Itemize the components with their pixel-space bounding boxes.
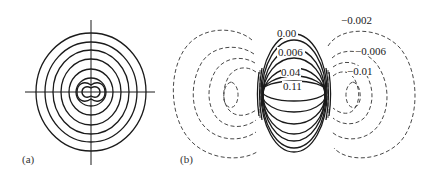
negative-lobe-left <box>173 30 260 158</box>
dashed-contour <box>224 68 256 115</box>
panel-label-a: (a) <box>22 153 35 166</box>
panel-a: (a) <box>22 20 155 166</box>
panel-b: 0.00 0.006 0.04 0.11 −0.002 −0.006 −0.01… <box>173 14 415 166</box>
figure-canvas: (a) <box>0 0 431 178</box>
dashed-contour <box>224 82 238 107</box>
contour-label: −0.002 <box>341 14 372 26</box>
contour-label: −0.01 <box>347 65 372 77</box>
contour-label: 0.04 <box>281 66 301 78</box>
contour-label: 0.006 <box>278 46 303 58</box>
dashed-contour <box>173 30 257 158</box>
panel-label-b: (b) <box>180 153 193 166</box>
contour-edge <box>258 72 260 116</box>
contour-edge <box>329 72 331 116</box>
contour-label: −0.006 <box>355 45 386 57</box>
contour-label: 0.00 <box>277 27 297 39</box>
contour-label: 0.11 <box>283 80 302 92</box>
contour-0.006 <box>263 49 325 141</box>
dashed-contour <box>346 82 360 107</box>
